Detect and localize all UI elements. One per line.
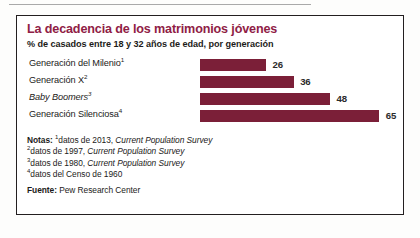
- notes-label: Notas:: [27, 135, 53, 145]
- bar-category-label: Generación del Milenio1: [29, 58, 124, 68]
- bar-row: Generación del Milenio1 26: [27, 57, 394, 74]
- bar-track: 26: [200, 59, 394, 71]
- notes-block: Notas: 1datos de 2013, Current Populatio…: [27, 135, 394, 196]
- bar-category-text: Baby Boomers: [29, 92, 88, 102]
- bar-track: 65: [200, 110, 394, 122]
- bar-category-label: Baby Boomers3: [29, 92, 91, 102]
- bar-row: Baby Boomers3 48: [27, 91, 394, 108]
- note-text: datos del Censo de 1960: [30, 169, 122, 179]
- page-title: La decadencia de los matrimonios jóvenes: [27, 22, 394, 37]
- bar-row: Generación X2 36: [27, 74, 394, 91]
- figure-inner: La decadencia de los matrimonios jóvenes…: [17, 16, 403, 214]
- footnote-marker: 1: [121, 56, 124, 63]
- bar-category-label: Generación Silenciosa4: [29, 109, 122, 119]
- note-source-italic: Current Population Survey: [87, 158, 184, 168]
- footnote-marker: 3: [88, 90, 91, 97]
- note-line-3: 3datos de 1980, Current Population Surve…: [27, 158, 394, 169]
- source-text: Pew Research Center: [59, 185, 140, 195]
- note-text: datos de 2013,: [58, 135, 115, 145]
- bar-row: Generación Silenciosa4 65: [27, 108, 394, 125]
- bar-baby-boomers: [200, 93, 330, 105]
- bar-category-label: Generación X2: [29, 75, 87, 85]
- bar-track: 36: [200, 76, 394, 88]
- footnote-marker: 2: [84, 73, 87, 80]
- bar-category-text: Generación Silenciosa: [29, 109, 119, 119]
- bar-category-text: Generación del Milenio: [29, 58, 121, 68]
- top-divider-rule: [9, 4, 311, 5]
- bar-value-label: 65: [386, 110, 396, 121]
- source-line: Fuente: Pew Research Center: [27, 185, 394, 196]
- bar-value-label: 26: [273, 59, 283, 70]
- bar-category-text: Generación X: [29, 75, 84, 85]
- bar-value-label: 36: [300, 76, 310, 87]
- source-label: Fuente:: [27, 185, 57, 195]
- bar-gen-x: [200, 76, 294, 88]
- note-line-1: Notas: 1datos de 2013, Current Populatio…: [27, 135, 394, 146]
- note-text: datos de 1997,: [30, 146, 87, 156]
- note-source-italic: Current Population Survey: [87, 146, 184, 156]
- chart-subtitle: % de casados entre 18 y 32 años de edad,…: [27, 38, 394, 50]
- bar-value-label: 48: [337, 93, 347, 104]
- note-text: datos de 1980,: [30, 158, 87, 168]
- bar-chart-plot: Generación del Milenio1 26 Generación X2…: [27, 57, 394, 127]
- bar-track: 48: [200, 93, 394, 105]
- note-line-2: 2datos de 1997, Current Population Surve…: [27, 146, 394, 157]
- bar-millennial: [200, 59, 266, 71]
- chart-figure-page: La decadencia de los matrimonios jóvenes…: [0, 0, 420, 238]
- note-line-4: 4datos del Censo de 1960: [27, 169, 394, 180]
- figure-box: La decadencia de los matrimonios jóvenes…: [16, 15, 404, 215]
- note-source-italic: Current Population Survey: [115, 135, 212, 145]
- footnote-marker: 4: [119, 107, 122, 114]
- bar-silent-generation: [200, 110, 379, 122]
